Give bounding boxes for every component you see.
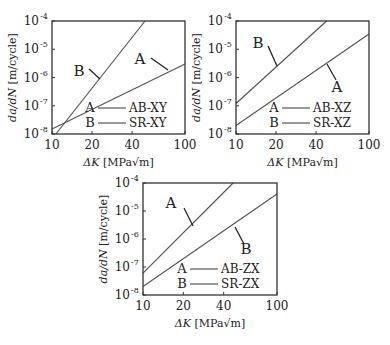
- y-tick-label: 10: [115, 204, 130, 218]
- svg-text:-4: -4: [224, 12, 232, 21]
- y-tick-label: 10: [208, 14, 223, 28]
- y-tick-label: 10: [24, 14, 39, 28]
- legend-letter: B: [269, 115, 279, 130]
- svg-text:-6: -6: [131, 230, 139, 239]
- y-tick-label: 10: [115, 260, 130, 274]
- svg-text:-5: -5: [224, 40, 232, 49]
- legend-label: AB-XY: [128, 101, 168, 115]
- x-tick-label: 100: [266, 299, 289, 313]
- chart-panel-1: 10204010010-810-710-610-510-4ΔK [MPa√m]d…: [6, 12, 196, 169]
- y-tick-label: 10: [115, 176, 130, 190]
- x-tick-label: 20: [176, 299, 191, 313]
- y-tick-label: 10: [208, 127, 223, 141]
- curve-label-a: A: [165, 194, 177, 212]
- legend-label: AB-XZ: [312, 101, 351, 115]
- legend-label: SR-XY: [129, 116, 167, 130]
- x-tick-label: 40: [308, 138, 323, 152]
- chart-panel-3: 10204010010-810-710-610-510-4ΔK [MPa√m]d…: [97, 174, 288, 330]
- y-axis-label: da/dN [m/cycle]: [190, 33, 203, 122]
- x-axis-label: ΔK [MPa√m]: [82, 156, 153, 169]
- y-tick-label: 10: [24, 42, 39, 56]
- x-tick-label: 100: [358, 138, 381, 152]
- x-tick-label: 20: [84, 138, 99, 152]
- chart-panel-2: 10204010010-810-710-610-510-4ΔK [MPa√m]d…: [190, 12, 380, 169]
- x-tick-label: 40: [124, 138, 139, 152]
- x-tick-label: 20: [268, 138, 283, 152]
- legend-letter: B: [85, 115, 95, 130]
- legend-letter: B: [177, 276, 187, 291]
- svg-text:-8: -8: [131, 286, 139, 295]
- leader-line: [268, 46, 277, 66]
- svg-text:-4: -4: [40, 12, 48, 21]
- svg-text:-7: -7: [131, 258, 139, 267]
- legend-letter: A: [176, 261, 187, 276]
- y-tick-label: 10: [208, 71, 223, 85]
- svg-text:-7: -7: [224, 97, 232, 106]
- y-tick-label: 10: [208, 42, 223, 56]
- svg-text:-5: -5: [131, 202, 139, 211]
- x-tick-label: 10: [135, 299, 150, 313]
- legend-label: SR-ZX: [221, 277, 260, 291]
- leader-line: [151, 58, 168, 70]
- svg-text:-8: -8: [40, 125, 48, 134]
- crack-growth-rate-figure: 10204010010-810-710-610-510-4ΔK [MPa√m]d…: [0, 0, 390, 345]
- svg-text:-5: -5: [40, 40, 48, 49]
- svg-text:-6: -6: [224, 69, 232, 78]
- x-axis-label: ΔK [MPa√m]: [266, 156, 337, 169]
- y-axis-label: da/dN [m/cycle]: [97, 195, 110, 284]
- legend-letter: A: [268, 100, 279, 115]
- series-line-sr-xz: [236, 21, 327, 104]
- legend: AAB-XZBSR-XZ: [268, 100, 351, 130]
- x-tick-label: 100: [174, 138, 197, 152]
- legend-label: SR-XZ: [313, 116, 351, 130]
- y-tick-label: 10: [24, 127, 39, 141]
- y-tick-label: 10: [24, 71, 39, 85]
- legend-label: AB-ZX: [220, 262, 260, 276]
- svg-text:-7: -7: [40, 97, 48, 106]
- curve-label-b: B: [73, 62, 84, 80]
- svg-text:-4: -4: [131, 174, 139, 183]
- curve-label-b: B: [240, 240, 251, 258]
- x-tick-label: 10: [44, 138, 59, 152]
- legend: AAB-XYBSR-XY: [84, 100, 168, 130]
- y-axis-label: da/dN [m/cycle]: [6, 33, 19, 122]
- y-tick-label: 10: [115, 232, 130, 246]
- svg-text:-8: -8: [224, 125, 232, 134]
- legend: AAB-ZXBSR-ZX: [176, 261, 260, 291]
- svg-text:-6: -6: [40, 69, 48, 78]
- curve-label-a: A: [331, 78, 343, 96]
- y-tick-label: 10: [115, 288, 130, 302]
- legend-letter: A: [84, 100, 95, 115]
- x-axis-label: ΔK [MPa√m]: [174, 317, 245, 330]
- curve-label-b: B: [252, 34, 263, 52]
- y-tick-label: 10: [208, 99, 223, 113]
- leader-line: [184, 208, 193, 226]
- leader-line: [89, 69, 100, 79]
- curve-label-a: A: [134, 50, 146, 68]
- series-line-ab-zx: [143, 183, 233, 273]
- x-tick-label: 10: [228, 138, 243, 152]
- x-tick-label: 40: [216, 299, 231, 313]
- y-tick-label: 10: [24, 99, 39, 113]
